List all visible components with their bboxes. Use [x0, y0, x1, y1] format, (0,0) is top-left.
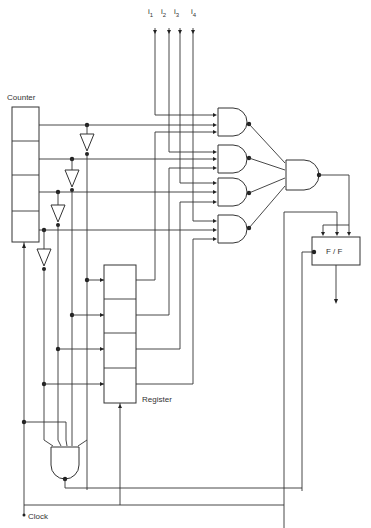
counter-outputs — [39, 125, 213, 258]
input-labels: i1 i2 i3 i4 — [148, 7, 197, 18]
clock-line: Clock — [22, 242, 284, 521]
input-i4-label: i4 — [191, 7, 197, 18]
compare-gate — [44, 440, 302, 488]
combining-gate — [249, 124, 349, 232]
counter-block — [12, 107, 39, 242]
flipflop-block: F / F — [284, 212, 360, 528]
register-label: Register — [142, 395, 172, 404]
flipflop-label: F / F — [326, 247, 343, 256]
clock-label: Clock — [28, 512, 49, 521]
counter-label: Counter — [7, 93, 36, 102]
input-i1-label: i1 — [148, 7, 154, 18]
inverters — [37, 123, 94, 490]
input-i2-label: i2 — [161, 7, 167, 18]
input-and-gates — [213, 108, 251, 243]
circuit-diagram: i1 i2 i3 i4 Counter — [0, 0, 371, 528]
input-i3-label: i3 — [174, 7, 180, 18]
